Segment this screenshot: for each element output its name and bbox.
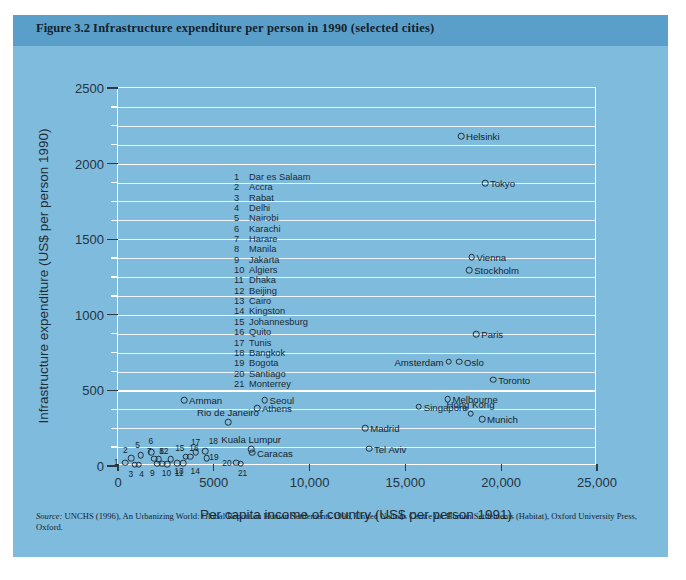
data-point[interactable]: [180, 460, 187, 467]
gridline-horizontal: [118, 126, 595, 127]
legend-item-label: Quito: [249, 327, 271, 337]
legend-item-label: Rabat: [249, 193, 274, 203]
y-tick-major: [107, 87, 118, 88]
y-tick-label: 500: [82, 383, 104, 398]
data-point[interactable]: [366, 445, 373, 452]
legend-item-label: Manila: [249, 244, 276, 254]
data-point[interactable]: [181, 397, 188, 404]
legend-item: 9Jakarta: [234, 255, 311, 265]
data-point[interactable]: [416, 403, 423, 410]
data-point[interactable]: [456, 358, 463, 365]
data-point-label: Tokyo: [490, 178, 515, 189]
x-tick-major: [501, 464, 502, 471]
data-point-label: Oslo: [464, 356, 484, 367]
data-point-label: Hong Kong: [447, 398, 495, 409]
data-point[interactable]: [445, 358, 452, 365]
legend-item: 19Bogota: [234, 358, 311, 368]
gridline-horizontal: [118, 334, 595, 335]
gridline-horizontal: [118, 390, 595, 391]
data-point[interactable]: [237, 461, 244, 468]
data-point[interactable]: [466, 267, 473, 274]
y-tick-major: [107, 163, 118, 164]
data-point-label: Vienna: [477, 252, 507, 263]
gridline-horizontal: [118, 296, 595, 297]
plot-wrapper: Infrastructure expenditure (US$ per pers…: [13, 15, 668, 557]
y-tick-minor: [111, 428, 118, 429]
data-point-number: 15: [175, 443, 184, 453]
data-point[interactable]: [362, 425, 369, 432]
data-point-number: 17: [191, 437, 200, 447]
figure-panel: Figure 3.2 Infrastructure expenditure pe…: [13, 15, 668, 557]
x-tick-label: 5000: [199, 475, 228, 490]
data-point-number: 12: [159, 446, 168, 456]
data-point-number: 1: [114, 457, 119, 467]
legend-item-label: Santiago: [249, 369, 286, 379]
y-tick-minor: [111, 333, 118, 334]
gridline-horizontal: [118, 353, 595, 354]
y-tick-label: 0: [97, 459, 104, 474]
legend-item-number: 14: [234, 306, 249, 316]
legend-item-label: Delhi: [249, 203, 270, 213]
data-point[interactable]: [482, 180, 489, 187]
data-point-number: 3: [129, 469, 134, 479]
data-point[interactable]: [225, 419, 232, 426]
legend-item-number: 16: [234, 327, 249, 337]
legend-item: 17Tunis: [234, 338, 311, 348]
data-point-label: Helsinki: [466, 131, 500, 142]
legend-item: 6Karachi: [234, 224, 311, 234]
data-point-number: 18: [209, 436, 218, 446]
legend-item: 4Delhi: [234, 203, 311, 213]
legend-item: 13Cairo: [234, 296, 311, 306]
legend-item: 18Bangkok: [234, 348, 311, 358]
plot-area: 050010001500200025000500010,00015,00020,…: [117, 87, 596, 465]
legend-city-list: 1Dar es Salaam2Accra3Rabat4Delhi5Nairobi…: [234, 172, 311, 389]
data-point-number: 21: [238, 468, 247, 478]
legend-item: 5Nairobi: [234, 213, 311, 223]
data-point[interactable]: [467, 411, 474, 418]
data-point[interactable]: [479, 416, 486, 423]
data-point[interactable]: [490, 377, 497, 384]
data-point[interactable]: [468, 254, 475, 261]
data-point[interactable]: [458, 133, 465, 140]
data-point[interactable]: [137, 452, 144, 459]
data-point[interactable]: [135, 461, 142, 468]
gridline-horizontal: [118, 201, 595, 202]
legend-item-label: Beijing: [249, 286, 277, 296]
legend-item-number: 20: [234, 369, 249, 379]
legend-item-number: 11: [234, 275, 249, 285]
y-tick-label: 2000: [75, 156, 104, 171]
legend-item: 1Dar es Salaam: [234, 172, 311, 182]
data-point[interactable]: [192, 449, 199, 456]
data-point-number: 9: [150, 468, 155, 478]
data-point-label: Amsterdam: [394, 356, 443, 367]
legend-item-number: 12: [234, 286, 249, 296]
legend-item-label: Karachi: [249, 224, 281, 234]
x-tick-major: [405, 464, 406, 471]
y-tick-minor: [111, 371, 118, 372]
legend-item: 3Rabat: [234, 193, 311, 203]
data-point-number: 10: [162, 468, 171, 478]
legend-item-number: 13: [234, 296, 249, 306]
data-point[interactable]: [202, 448, 209, 455]
gridline-horizontal: [118, 315, 595, 316]
data-point[interactable]: [128, 455, 135, 462]
legend-item-number: 10: [234, 265, 249, 275]
legend-item-label: Accra: [249, 182, 273, 192]
y-tick-minor: [111, 409, 118, 410]
y-tick-minor: [111, 125, 118, 126]
data-point[interactable]: [249, 449, 256, 456]
legend-item: 2Accra: [234, 182, 311, 192]
legend-item-label: Dhaka: [249, 275, 276, 285]
legend-item-number: 3: [234, 193, 249, 203]
data-point-label: Paris: [481, 329, 503, 340]
x-tick-label: 15,000: [386, 475, 426, 490]
legend-item: 7Harare: [234, 234, 311, 244]
gridline-horizontal: [118, 107, 595, 108]
data-point[interactable]: [473, 331, 480, 338]
y-tick-minor: [111, 220, 118, 221]
gridline-horizontal: [118, 183, 595, 184]
y-tick-minor: [111, 106, 118, 107]
data-point[interactable]: [122, 459, 129, 466]
data-point-number: 7: [147, 446, 152, 456]
data-point-number: 20: [222, 458, 231, 468]
